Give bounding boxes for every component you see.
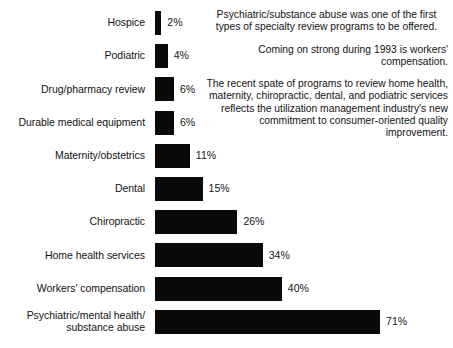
bar-value-label: 6% xyxy=(180,117,195,129)
bar-value-label: 15% xyxy=(209,183,230,195)
annotation-column: Psychiatric/substance abuse was one of t… xyxy=(205,9,448,150)
bar-row: Home health services34% xyxy=(0,243,453,267)
bar xyxy=(155,177,203,201)
bar xyxy=(155,210,237,234)
bar-row: Dental15% xyxy=(0,177,453,201)
bar-value-label: 6% xyxy=(180,84,195,96)
bar-value-label: 34% xyxy=(269,250,290,262)
bar xyxy=(155,310,380,334)
bar-track: 71% xyxy=(150,310,453,334)
note-recent-spate: The recent spate of programs to review h… xyxy=(205,78,448,139)
figure-root: Hospice2%Podiatric4%Drug/pharmacy review… xyxy=(0,0,453,348)
bar xyxy=(155,44,168,68)
bar-row: Chiropractic26% xyxy=(0,210,453,234)
bar-category-label: Chiropractic xyxy=(0,216,150,228)
bar-value-label: 4% xyxy=(174,50,189,62)
bar xyxy=(155,77,174,101)
bar-category-label: Hospice xyxy=(0,17,150,29)
bar-category-label: Home health services xyxy=(0,250,150,262)
bar xyxy=(155,144,190,168)
bar-value-label: 26% xyxy=(243,216,264,228)
bar-category-label: Psychiatric/mental health/ substance abu… xyxy=(0,310,150,333)
bar xyxy=(155,111,174,135)
bar-category-label: Durable medical equipment xyxy=(0,117,150,129)
bar-row: Psychiatric/mental health/ substance abu… xyxy=(0,310,453,334)
bar-track: 15% xyxy=(150,177,453,201)
bar-value-label: 40% xyxy=(288,283,309,295)
bar-category-label: Maternity/obstetrics xyxy=(0,150,150,162)
bar-category-label: Workers' compensation xyxy=(0,283,150,295)
note-workers-comp: Coming on strong during 1993 is workers'… xyxy=(205,44,448,69)
bar-row: Workers' compensation40% xyxy=(0,277,453,301)
bar-value-label: 11% xyxy=(196,150,216,162)
bar xyxy=(155,277,282,301)
bar-value-label: 2% xyxy=(167,17,182,29)
bar xyxy=(155,243,263,267)
bar-track: 26% xyxy=(150,210,453,234)
bar-category-label: Drug/pharmacy review xyxy=(0,84,150,96)
bar xyxy=(155,11,161,35)
bar-track: 34% xyxy=(150,243,453,267)
bar-category-label: Podiatric xyxy=(0,50,150,62)
bar-category-label: Dental xyxy=(0,183,150,195)
bar-track: 40% xyxy=(150,277,453,301)
bar-value-label: 71% xyxy=(386,316,407,328)
note-psychiatric-first: Psychiatric/substance abuse was one of t… xyxy=(205,9,448,34)
